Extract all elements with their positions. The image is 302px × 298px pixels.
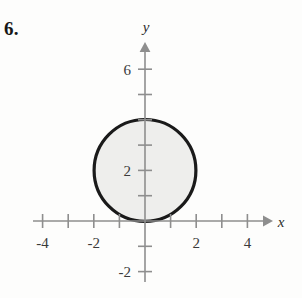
- x-tick-label-minus4: -4: [36, 235, 49, 251]
- x-tick-label-4: 4: [244, 235, 252, 251]
- y-axis-label: y: [141, 19, 150, 35]
- figure-container: 6.: [0, 0, 302, 298]
- y-tick-label-6: 6: [124, 62, 132, 78]
- x-axis-arrowhead: [263, 216, 273, 227]
- y-tick-label-2: 2: [124, 163, 132, 179]
- y-axis-arrowhead: [140, 42, 151, 52]
- coordinate-plane-plot: -4 -2 2 4 6 2 -2 x y: [0, 0, 302, 298]
- x-tick-label-2: 2: [192, 235, 200, 251]
- x-tick-label-minus2: -2: [88, 235, 101, 251]
- y-tick-label-minus2: -2: [119, 264, 132, 280]
- x-axis-label: x: [277, 214, 285, 230]
